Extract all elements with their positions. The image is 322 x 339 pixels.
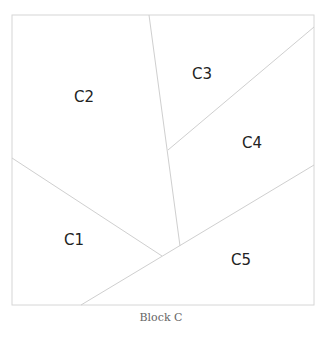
block-diagram: C1 C2 C3 C4 C5: [0, 0, 322, 339]
region-label-c1: C1: [64, 231, 84, 249]
region-label-c5: C5: [231, 251, 251, 269]
region-label-c4: C4: [242, 134, 262, 152]
region-label-c3: C3: [192, 65, 212, 83]
block-border: [12, 15, 314, 305]
diagram-caption: Block C: [0, 311, 322, 324]
region-label-c2: C2: [74, 88, 94, 106]
